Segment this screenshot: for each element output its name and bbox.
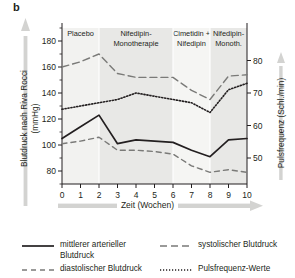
band-label-0: Placebo — [67, 29, 94, 38]
legend-label-2: diastolischer Blutdruck — [60, 264, 152, 275]
band-2 — [173, 28, 210, 184]
plot-area: PlaceboNifedipin-MonotherapieCimetidin +… — [0, 0, 295, 215]
y-tick-label-left-4: 160 — [42, 62, 56, 72]
chart-legend: mittlerer arterieller Blutdrucksystolisc… — [0, 238, 295, 278]
legend-label-1: systolischer Blutdruck — [198, 240, 290, 251]
legend-swatch-0 — [22, 241, 56, 251]
y-tick-label-left-0: 80 — [47, 166, 57, 176]
y-tick-label-right-2: 70 — [253, 88, 263, 98]
band-label-3: Nifedipin-Monoth. — [213, 29, 245, 48]
band-1 — [99, 28, 173, 184]
legend-swatch-1 — [160, 241, 194, 251]
legend-item-0: mittlerer arterieller Blutdruck — [22, 240, 142, 261]
y-tick-label-right-1: 60 — [253, 121, 263, 131]
line-chart: PlaceboNifedipin-MonotherapieCimetidin +… — [0, 0, 295, 215]
legend-label-0: mittlerer arterieller Blutdruck — [60, 240, 142, 261]
x-axis-title-row: Zeit (Wochen) — [0, 200, 295, 210]
legend-item-2: diastolischer Blutdruck — [22, 264, 152, 275]
legend-item-1: systolischer Blutdruck — [160, 240, 290, 251]
y-tick-label-right-0: 50 — [253, 153, 263, 163]
legend-item-3: Pulsfrequenz-Werte — [160, 264, 290, 275]
y-tick-label-left-2: 120 — [42, 114, 56, 124]
band-label-2: Cimetidin +Nifedipin — [173, 29, 210, 48]
y-tick-label-left-1: 100 — [42, 140, 56, 150]
legend-swatch-3 — [160, 265, 194, 275]
legend-swatch-2 — [22, 265, 56, 275]
figure-panel: b Blutdruck nach Riva Rocci (mmHg) Pulsf… — [0, 0, 295, 278]
y-tick-label-left-3: 140 — [42, 88, 56, 98]
y-tick-label-right-3: 80 — [253, 56, 263, 66]
legend-label-3: Pulsfrequenz-Werte — [198, 264, 290, 275]
y-tick-label-left-5: 180 — [42, 36, 56, 46]
x-axis-title: Zeit (Wochen) — [117, 200, 178, 210]
